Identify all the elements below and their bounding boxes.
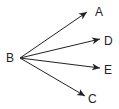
node-label-a: A xyxy=(95,5,103,19)
arrow-b-to-e xyxy=(20,58,100,68)
node-label-e: E xyxy=(104,63,112,77)
arrow-b-to-a xyxy=(20,12,87,58)
node-label-b: B xyxy=(6,51,14,65)
diagram-canvas: B A D E C xyxy=(0,0,119,109)
node-label-d: D xyxy=(104,34,113,48)
arrow-b-to-c xyxy=(20,58,85,96)
arrow-b-to-d xyxy=(20,39,100,58)
node-label-c: C xyxy=(88,92,97,106)
arrow-fan-diagram: B A D E C xyxy=(0,0,119,109)
